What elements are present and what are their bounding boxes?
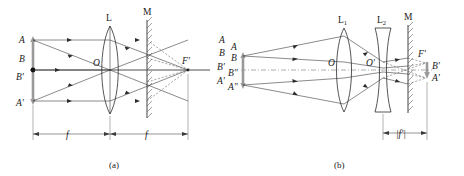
label-image-b-Bp: B' xyxy=(432,61,441,71)
panel-b: A B B" A" L1 O L2 O' xyxy=(227,12,441,170)
figure-canvas: A B B' A' L O M xyxy=(0,0,464,176)
label-dim-b: |f'| xyxy=(396,129,406,139)
focus-point-a xyxy=(187,69,190,72)
label-object-b-A: A xyxy=(230,42,237,52)
label-focus-b: F' xyxy=(417,49,427,59)
object-arrow-a xyxy=(30,36,36,105)
label-object-b-Bpp: B" xyxy=(228,68,239,78)
label-lens-a: L xyxy=(106,13,112,23)
dimension-a xyxy=(33,132,188,136)
label-image-a-Ap: A' xyxy=(216,76,226,86)
label-object-a-B: B xyxy=(19,54,25,64)
label-lens1-center-b: O xyxy=(328,58,335,68)
label-lens-center-a: O xyxy=(93,58,100,68)
image-arrow-b xyxy=(424,62,430,79)
label-lens1-b: L1 xyxy=(338,15,347,26)
optics-figure: A B B' A' L O M xyxy=(0,0,464,176)
label-object-a-Bp: B' xyxy=(16,72,25,82)
label-image-a-A: A xyxy=(218,35,225,45)
panel-a: A B B' A' L O M xyxy=(15,7,226,170)
label-dim-a-1: f xyxy=(66,130,70,140)
label-lens2-b: L2 xyxy=(377,15,386,26)
label-image-a-B: B xyxy=(219,48,225,58)
label-image-b-Ap: A' xyxy=(431,73,441,83)
label-object-b-B: B xyxy=(231,53,237,63)
label-mirror-b: M xyxy=(404,12,413,22)
label-mirror-a: M xyxy=(143,7,152,17)
label-object-a-Ap: A' xyxy=(15,98,25,108)
object-arrow-b xyxy=(240,52,245,89)
label-image-a-Bp: B' xyxy=(217,62,226,72)
label-focus-a: F' xyxy=(181,56,191,66)
mirror-a xyxy=(147,17,152,118)
caption-a: (a) xyxy=(109,160,119,170)
caption-b: (b) xyxy=(334,160,345,170)
rays-a xyxy=(33,38,188,103)
label-object-a-A: A xyxy=(18,35,25,45)
label-dim-a-2: f xyxy=(145,130,149,140)
label-object-b-App: A" xyxy=(227,82,239,92)
mirror-b xyxy=(408,22,413,113)
